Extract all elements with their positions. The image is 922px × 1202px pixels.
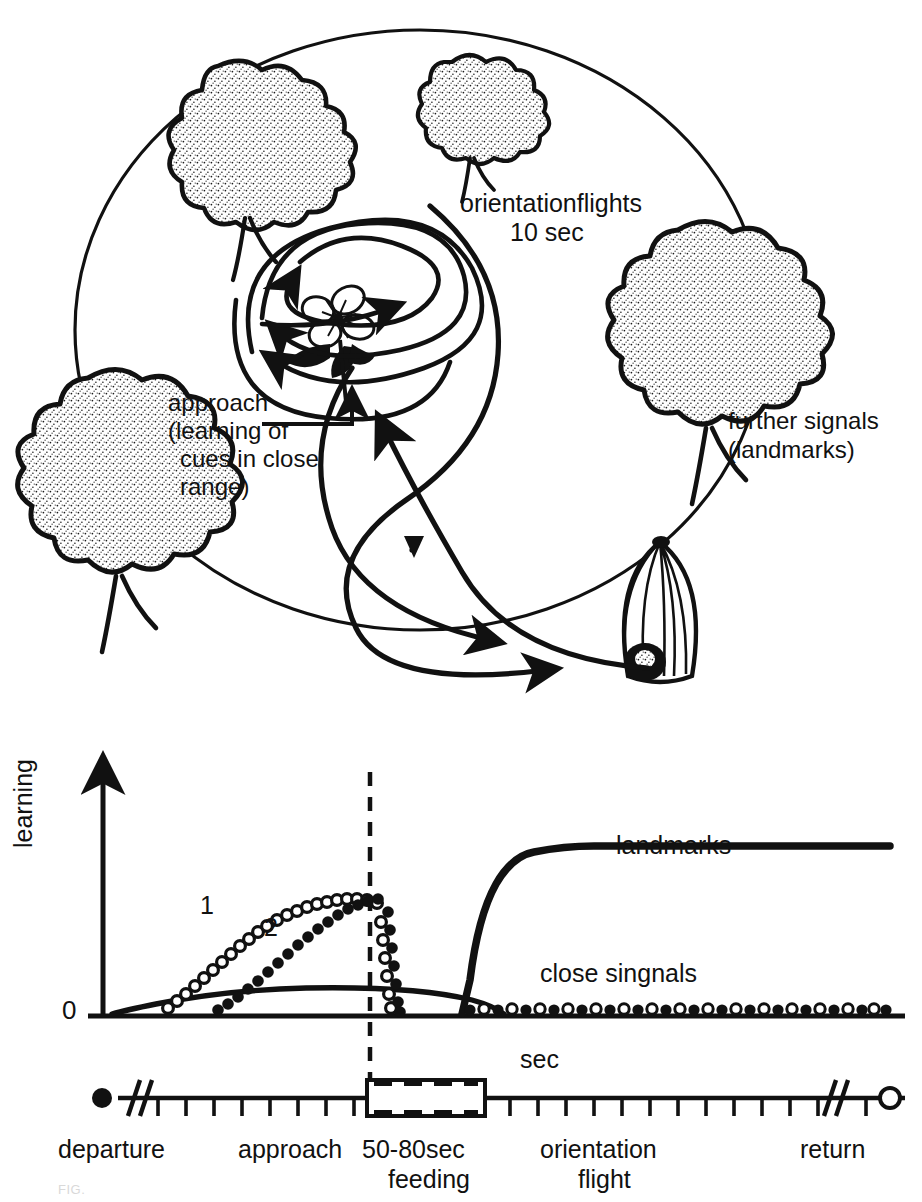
- curve-2-annotation: 2: [264, 914, 278, 941]
- x-label-flight: flight: [578, 1166, 631, 1193]
- curve-1-annotation: 1: [200, 892, 214, 919]
- x-label-orientation: orientation: [540, 1136, 657, 1163]
- further-signals-label-line-1: further signals: [728, 408, 879, 434]
- approach-label-line-1: approach: [168, 390, 268, 416]
- time-axis-unit-label: sec: [520, 1046, 559, 1073]
- return-marker: [880, 1088, 900, 1108]
- figure-background: [0, 0, 922, 1202]
- y-axis-label: learning: [10, 648, 37, 848]
- orientation-flights-label: orientationflights: [460, 190, 642, 217]
- departure-marker: [92, 1088, 112, 1108]
- approach-label-line-4: range): [180, 474, 249, 500]
- x-label-return: return: [800, 1136, 865, 1163]
- x-label-feeding: feeding: [388, 1166, 470, 1193]
- bee-orientation-figure: [0, 0, 922, 1202]
- tree-canopy: [418, 55, 549, 164]
- hive-top: [652, 536, 670, 548]
- figure-caption-fragment: FIG.: [58, 1182, 85, 1197]
- further-signals-label-line-2: (landmarks): [728, 437, 855, 463]
- y-axis-zero-tick: 0: [62, 996, 76, 1024]
- x-label-approach: approach: [238, 1136, 342, 1163]
- approach-label-line-3: cues in close: [180, 446, 319, 472]
- landmarks-annotation: landmarks: [616, 832, 731, 859]
- x-label-departure: departure: [58, 1136, 165, 1163]
- x-label-feeding-duration: 50-80sec: [362, 1136, 465, 1163]
- approach-label-line-2: (learning of: [168, 418, 288, 444]
- close-signals-annotation: close singnals: [540, 960, 697, 987]
- orientation-flights-duration: 10 sec: [510, 219, 584, 246]
